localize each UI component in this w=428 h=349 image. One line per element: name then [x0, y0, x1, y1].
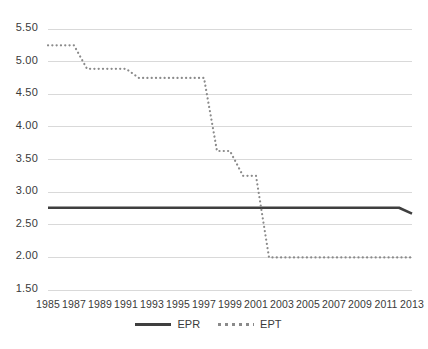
series-line-epr: [48, 208, 412, 214]
y-tick-label: 3.50: [2, 152, 38, 164]
plot-area: 1.502.002.503.003.504.004.505.005.50 198…: [0, 0, 417, 310]
series-layer: [48, 45, 412, 257]
legend-label: EPT: [260, 318, 281, 330]
chart-legend: EPREPT: [0, 318, 417, 330]
legend-swatch-dotted-icon: [218, 323, 254, 326]
y-tick-label: 3.00: [2, 184, 38, 196]
legend-swatch-solid-icon: [135, 323, 171, 326]
legend-label: EPR: [177, 318, 200, 330]
legend-item-epr[interactable]: EPR: [135, 318, 200, 330]
y-tick-label: 4.50: [2, 86, 38, 98]
chart-canvas: [0, 0, 417, 310]
series-line-ept: [48, 45, 412, 257]
x-tick-label: 2013: [395, 298, 428, 310]
y-tick-label: 5.50: [2, 21, 38, 33]
y-tick-label: 2.50: [2, 217, 38, 229]
y-tick-label: 2.00: [2, 249, 38, 261]
y-tick-label: 1.50: [2, 282, 38, 294]
y-tick-label: 4.00: [2, 119, 38, 131]
legend-item-ept[interactable]: EPT: [218, 318, 281, 330]
y-tick-label: 5.00: [2, 54, 38, 66]
